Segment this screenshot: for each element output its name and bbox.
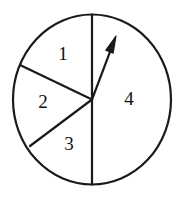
- sector-label-4: 4: [124, 88, 134, 109]
- spinner-diagram: 1 2 3 4: [0, 0, 181, 198]
- sector-label-2: 2: [38, 91, 48, 112]
- sector-label-3: 3: [64, 133, 74, 154]
- sector-label-1: 1: [58, 43, 68, 64]
